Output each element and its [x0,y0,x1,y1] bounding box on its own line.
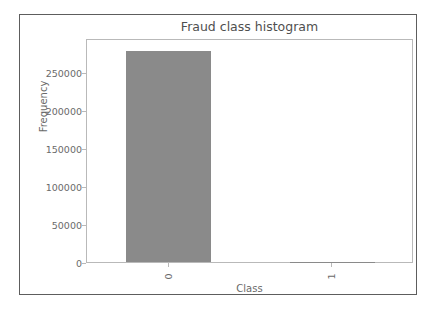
x-axis-label: Class [86,283,413,294]
y-tick-mark [82,187,86,188]
y-tick-mark [82,73,86,74]
bar-0 [126,51,211,262]
y-tick-mark [82,149,86,150]
x-tick-label: 0 [162,273,173,279]
y-axis-tick-labels: 050000100000150000200000250000 [36,39,82,263]
plot-area [86,39,413,263]
chart-screenshot: Fraud class histogram Frequency 05000010… [0,0,435,309]
x-tick-label: 1 [326,273,337,279]
y-tick-label: 50000 [52,220,82,231]
y-tick-mark [82,111,86,112]
y-tick-mark [82,225,86,226]
x-tick-mark [168,263,169,267]
bars-layer [87,40,412,262]
y-tick-mark [82,263,86,264]
y-tick-label: 200000 [46,106,82,117]
y-tick-label: 250000 [46,68,82,79]
y-tick-label: 100000 [46,182,82,193]
y-tick-label: 150000 [46,144,82,155]
figure-frame: Fraud class histogram Frequency 05000010… [19,14,417,295]
chart-title: Fraud class histogram [86,19,413,34]
x-tick-mark [331,263,332,267]
